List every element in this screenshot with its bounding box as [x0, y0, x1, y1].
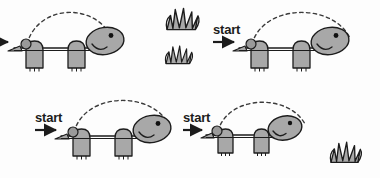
ball: [21, 39, 31, 49]
illustration-canvas: rt start start start: [0, 0, 380, 178]
ball: [212, 126, 222, 136]
ball: [68, 127, 78, 137]
ball: [246, 39, 256, 49]
start-label: start: [213, 22, 241, 37]
start-label: start: [35, 110, 63, 125]
start-label: start: [183, 110, 211, 125]
turtle-sequence-svg: rt start start start: [0, 0, 380, 178]
